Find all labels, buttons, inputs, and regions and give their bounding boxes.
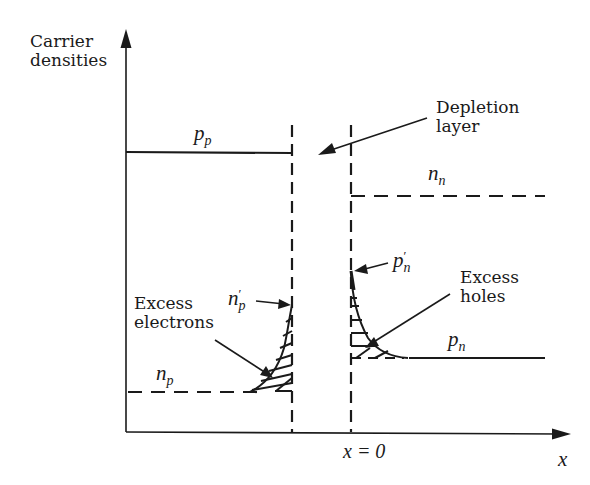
excess-electrons-label: Excess electrons [134,294,214,332]
y-axis [121,29,132,432]
x-axis-label: x [558,450,567,469]
excess-holes-label: Excess holes [460,268,519,306]
excess-electrons-region [250,305,292,392]
origin-label: x = 0 [343,442,385,461]
np-prime-arrow-icon [278,299,291,309]
excess-holes-region [351,271,408,358]
y-axis-arrow-icon [121,29,132,48]
excess-holes-pointer [372,294,450,343]
depletion-arrow-icon [318,143,336,155]
depletion-layer-pointer [322,118,427,153]
carrier-density-diagram [0,0,590,485]
excess-electrons-arrow-icon [260,366,273,378]
pn-label: pn [448,330,466,356]
depletion-layer-label: Depletion layer [436,98,520,136]
pp-level-line [126,152,292,153]
pn-prime-label: p′n [393,250,411,274]
pp-label: pp [194,124,212,150]
x-axis [126,429,571,440]
nn-label: nn [428,164,446,190]
pn-prime-arrow-icon [354,264,368,274]
y-axis-label: Carrier densities [30,32,107,70]
excess-electrons-pointer [215,340,266,373]
np-prime-label: n′p [228,288,246,312]
np-label: np [156,364,174,390]
x-axis-arrow-icon [552,429,571,440]
